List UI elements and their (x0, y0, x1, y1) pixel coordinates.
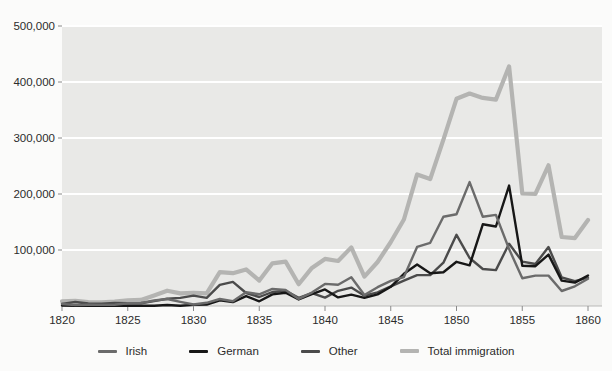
immigration-line-chart-figure: 100,000200,000300,000400,000500,00018201… (0, 0, 612, 371)
x-axis-label-1825: 1825 (115, 314, 141, 326)
y-axis-label-400000: 400,000 (13, 76, 55, 88)
legend-swatch-other (301, 350, 320, 353)
legend-label-german: German (217, 345, 259, 357)
x-axis-label-1855: 1855 (509, 314, 535, 326)
y-axis-label-300000: 300,000 (13, 132, 55, 144)
y-axis-label-100000: 100,000 (13, 244, 55, 256)
legend-label-other: Other (329, 345, 358, 357)
y-axis-label-500000: 500,000 (13, 20, 55, 32)
x-axis-label-1835: 1835 (246, 314, 272, 326)
y-axis-label-200000: 200,000 (13, 188, 55, 200)
plot-area: 100,000200,000300,000400,000500,00018201… (0, 0, 612, 338)
x-axis-label-1830: 1830 (181, 314, 207, 326)
legend-item-other: Other (301, 345, 358, 357)
legend-swatch-total-immigration (400, 349, 419, 354)
legend-label-irish: Irish (126, 345, 148, 357)
legend-label-total-immigration: Total immigration (428, 345, 515, 357)
x-axis-label-1860: 1860 (575, 314, 601, 326)
legend-swatch-irish (98, 350, 117, 353)
legend-item-irish: Irish (98, 345, 148, 357)
x-axis-label-1850: 1850 (444, 314, 470, 326)
legend-item-total-immigration: Total immigration (400, 345, 515, 357)
x-axis-label-1820: 1820 (49, 314, 75, 326)
x-axis-label-1840: 1840 (312, 314, 338, 326)
legend-item-german: German (189, 345, 259, 357)
legend-swatch-german (189, 350, 208, 353)
chart-legend: IrishGermanOtherTotal immigration (0, 338, 612, 364)
x-axis-label-1845: 1845 (378, 314, 404, 326)
